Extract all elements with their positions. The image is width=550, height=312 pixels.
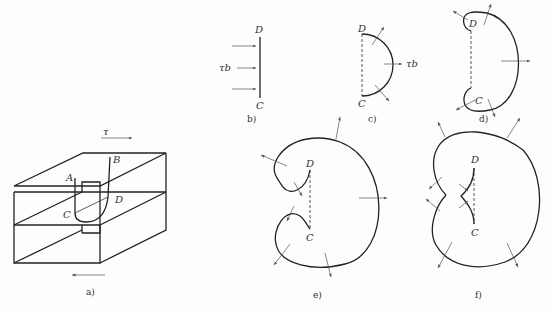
panel-c-label-D: D [357,23,366,34]
panel-c-label-C: C [358,98,366,109]
figure-canvas: τ A B C D a) D C τb b) D C τb c) D C d) [0,0,550,312]
panel-a-label-B: B [112,154,120,165]
panel-d-label-C: C [475,95,483,106]
panel-b-force-label: τb [219,62,231,73]
panel-a-caption: a) [86,287,95,297]
panel-a-shear-label: τ [103,126,109,137]
panel-b-caption: b) [247,114,256,124]
panel-e-label-C: C [306,232,314,243]
panel-e-label-D: D [305,158,314,169]
panel-d-expanding-loop [453,4,530,117]
panel-f-label-D: D [470,154,479,165]
panel-a-label-D: D [114,194,123,205]
frank-read-source-figure: τ A B C D a) D C τb b) D C τb c) D C d) [0,0,550,312]
panel-f-label-C: C [471,227,479,238]
panel-b-label-C: C [256,100,264,111]
panel-a-crystal-block [14,138,166,275]
panel-b-straight-segment [232,37,260,98]
panel-b-label-D: D [254,24,263,35]
panel-e-curling-loop [261,117,387,277]
panel-a-label-A: A [65,172,73,183]
panel-d-caption: d) [479,114,488,124]
panel-c-semicircle [362,27,402,101]
panel-c-caption: c) [368,114,377,124]
panel-a-label-C: C [63,209,71,220]
panel-e-caption: e) [313,290,322,300]
panel-c-force-label: τb [406,58,418,69]
panel-f-loop-pinch-off [426,118,540,268]
panel-d-label-D: D [468,18,477,29]
panel-f-caption: f) [475,290,482,300]
